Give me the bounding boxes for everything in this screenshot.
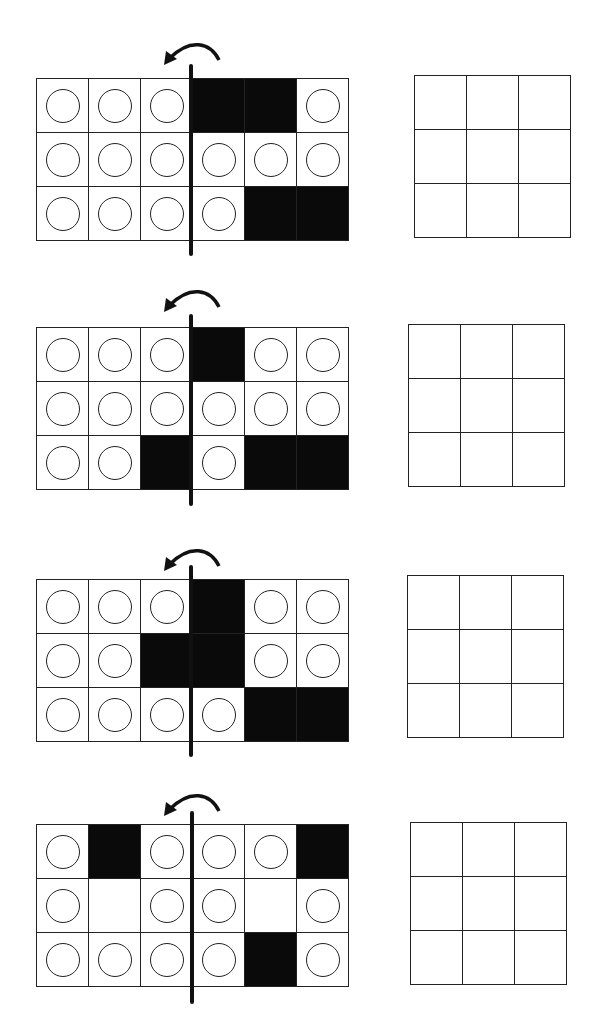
circle-icon [254,392,288,426]
answer-grid[interactable] [410,822,567,985]
circle-icon [202,943,236,977]
circle-icon [306,590,340,624]
answer-cell[interactable] [519,184,571,238]
black-cell [245,933,297,987]
circle-cell [245,328,297,382]
circle-cell [193,382,245,436]
answer-grid[interactable] [408,324,565,487]
circle-icon [98,644,132,678]
circle-cell [297,634,349,688]
answer-cell[interactable] [408,576,460,630]
answer-cell[interactable] [460,684,512,738]
circle-cell [297,133,349,187]
circle-icon [150,943,184,977]
circle-cell [141,133,193,187]
answer-cell[interactable] [460,576,512,630]
circle-icon [98,143,132,177]
circle-icon [150,590,184,624]
circle-cell [37,825,89,879]
answer-cell[interactable] [461,325,513,379]
circle-cell [37,688,89,742]
answer-cell[interactable] [515,823,567,877]
puzzle-panel-3 [0,500,600,750]
circle-icon [46,943,80,977]
answer-cell[interactable] [409,379,461,433]
answer-cell[interactable] [415,130,467,184]
circle-cell [89,133,141,187]
circle-icon [46,197,80,231]
puzzle-panel-2 [0,250,600,500]
circle-cell [297,328,349,382]
answer-cell[interactable] [415,76,467,130]
circle-cell [37,79,89,133]
answer-cell[interactable] [408,630,460,684]
curved-arrow-left-icon [160,36,230,72]
answer-grid[interactable] [407,575,564,738]
circle-cell [141,879,193,933]
answer-cell[interactable] [519,76,571,130]
circle-cell [193,879,245,933]
answer-grid[interactable] [414,75,571,238]
circle-cell [297,79,349,133]
circle-icon [46,590,80,624]
answer-cell[interactable] [411,877,463,931]
circle-icon [98,590,132,624]
circle-icon [202,446,236,480]
circle-icon [306,89,340,123]
curved-arrow-left-icon [160,787,230,823]
circle-cell [89,328,141,382]
circle-icon [98,943,132,977]
answer-cell[interactable] [513,433,565,487]
circle-icon [254,338,288,372]
answer-cell[interactable] [512,630,564,684]
answer-cell[interactable] [415,184,467,238]
fold-line [189,314,193,506]
circle-cell [297,933,349,987]
answer-cell[interactable] [512,576,564,630]
black-cell [297,825,349,879]
circle-icon [46,446,80,480]
circle-cell [37,580,89,634]
answer-cell[interactable] [463,931,515,985]
circle-icon [98,197,132,231]
circle-cell [89,580,141,634]
circle-icon [306,943,340,977]
circle-icon [306,143,340,177]
answer-cell[interactable] [408,684,460,738]
circle-cell [141,688,193,742]
circle-icon [254,143,288,177]
curved-arrow-left-icon [160,542,230,578]
answer-cell[interactable] [463,823,515,877]
circle-cell [37,133,89,187]
answer-cell[interactable] [513,379,565,433]
circle-icon [150,835,184,869]
answer-cell[interactable] [513,325,565,379]
circle-cell [193,688,245,742]
black-cell [297,688,349,742]
answer-cell[interactable] [463,877,515,931]
circle-cell [245,580,297,634]
answer-cell[interactable] [467,130,519,184]
answer-cell[interactable] [409,325,461,379]
circle-icon [306,644,340,678]
circle-cell [141,328,193,382]
circle-cell [141,580,193,634]
answer-cell[interactable] [461,433,513,487]
answer-cell[interactable] [409,433,461,487]
circle-cell [297,879,349,933]
answer-cell[interactable] [467,184,519,238]
curved-arrow-left-icon [160,283,230,319]
answer-cell[interactable] [461,379,513,433]
answer-cell[interactable] [519,130,571,184]
answer-cell[interactable] [515,877,567,931]
answer-cell[interactable] [467,76,519,130]
circle-icon [98,446,132,480]
circle-icon [46,89,80,123]
answer-cell[interactable] [460,630,512,684]
answer-cell[interactable] [411,823,463,877]
answer-cell[interactable] [411,931,463,985]
answer-cell[interactable] [515,931,567,985]
black-cell [141,634,193,688]
circle-icon [202,698,236,732]
answer-cell[interactable] [512,684,564,738]
